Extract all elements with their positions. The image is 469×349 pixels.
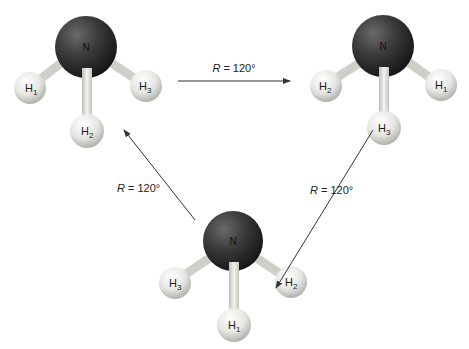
rotation-label-left: R = 120°	[117, 182, 160, 194]
bond	[229, 262, 239, 314]
molecule-top-left: N H1 H3 H2	[14, 16, 162, 148]
ammonia-rotation-diagram: N H1 H3 H2 N H2 H1 H3 N H3 H2 H1 R	[0, 0, 469, 349]
rotation-label-right: R = 120°	[310, 184, 353, 196]
atom-label: N	[229, 236, 236, 247]
atom-label: N	[82, 42, 89, 53]
molecule-top-right: N H2 H1 H3	[310, 15, 457, 145]
arrow-right	[276, 130, 373, 288]
rotation-label-top: R = 120°	[212, 62, 255, 74]
molecule-bottom: N H3 H2 H1	[159, 211, 307, 342]
bond	[82, 68, 92, 120]
arrow-left	[124, 130, 195, 220]
atom-label: N	[379, 41, 386, 52]
